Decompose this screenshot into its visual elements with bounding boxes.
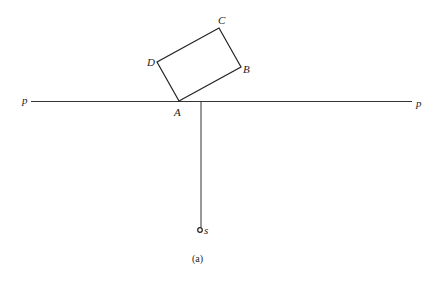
vertex-label-c: C: [218, 14, 226, 26]
vertex-label-b: B: [243, 63, 250, 75]
vertex-label-a: A: [173, 106, 181, 118]
point-s: [198, 228, 203, 233]
rectangle-abcd: [157, 28, 241, 101]
line-p-label-left: p: [21, 94, 28, 106]
point-s-label: s: [204, 224, 208, 236]
vertex-label-d: D: [146, 56, 155, 68]
diagram-canvas: p p A B C D s (a): [0, 0, 443, 284]
figure-caption: (a): [192, 253, 203, 265]
line-p-label-right: p: [415, 97, 422, 109]
